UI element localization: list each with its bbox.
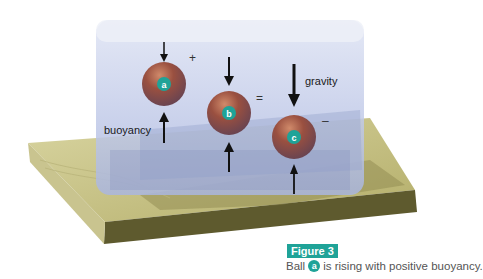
svg-text:b: b — [226, 109, 232, 119]
caption-prefix: Ball — [286, 260, 305, 272]
minus-symbol: – — [322, 114, 329, 128]
equals-symbol: = — [256, 91, 263, 105]
plus-symbol: + — [189, 51, 196, 65]
figure-number-badge: Figure 3 — [287, 244, 338, 258]
caption-ball-badge: a — [308, 260, 320, 272]
ball-c: c — [272, 115, 316, 159]
figure-caption: Ball a is rising with positive buoyancy. — [286, 260, 483, 272]
gravity-label: gravity — [305, 75, 337, 87]
caption-suffix: is rising with positive buoyancy. — [323, 260, 483, 272]
ball-b: b — [207, 91, 251, 135]
ball-a: a — [142, 62, 186, 106]
svg-text:c: c — [291, 133, 296, 143]
buoyancy-label: buoyancy — [104, 124, 151, 136]
